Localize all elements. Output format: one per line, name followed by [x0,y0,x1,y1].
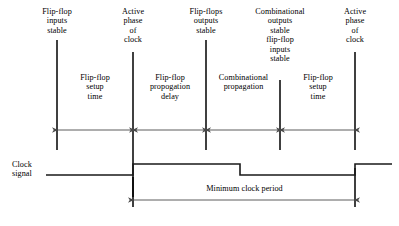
event-label-combinational-outputs-stable: Combinational outputs stable flip-flop i… [237,7,323,63]
clock-waveform [46,164,392,175]
interval-label-combinational-propagation: Combinational propagation [207,73,280,92]
interval-label-flip-flop-propogation-delay: Flip-flop propogation delay [134,73,206,101]
clock-trace [46,164,392,175]
event-label-flip-flop-inputs-stable: Flip-flop inputs stable [14,7,100,35]
event-reference-lines [57,40,355,207]
interval-label-flip-flop-setup-time-second: Flip-flop setup time [281,73,355,101]
minimum-clock-period-label: Minimum clock period [134,184,355,193]
event-label-active-phase-of-clock-second: Active phase of clock [312,7,398,45]
clock-signal-label: Clock signal [12,160,46,179]
timing-diagram: Flip-flop inputs stable Active phase of … [0,0,399,226]
interval-label-flip-flop-setup-time-first: Flip-flop setup time [58,73,132,101]
